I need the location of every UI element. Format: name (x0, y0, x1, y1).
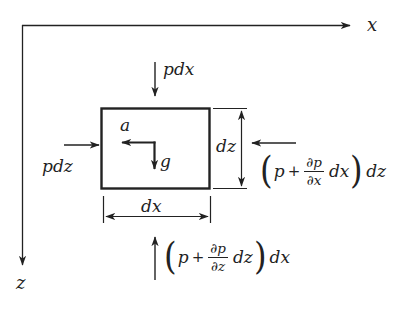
fluid-element-diagram: x z pdx pdz a g dz dx ( p + ∂p ∂x dx ) d… (0, 0, 398, 313)
fraction-denominator: ∂z (211, 258, 225, 274)
close-paren: ) (351, 151, 364, 189)
partial-dp-dx-fraction: ∂p ∂x (304, 156, 324, 188)
area-term: dx (270, 249, 290, 266)
fraction-numerator: ∂p (208, 242, 228, 259)
bottom-pressure-formula: ( p + ∂p ∂z dz ) dx (163, 235, 290, 280)
left-pressure-label: pdz (42, 158, 73, 175)
dz-dimension-label: dz (216, 138, 236, 155)
open-paren: ( (164, 237, 177, 275)
partial-dp-dz-fraction: ∂p ∂z (208, 242, 228, 274)
pressure-symbol: p (274, 163, 285, 180)
fraction-denominator: ∂x (307, 172, 322, 188)
open-paren: ( (260, 151, 273, 189)
dx-dimension-label: dx (141, 198, 161, 215)
acceleration-label: a (120, 117, 130, 134)
fraction-numerator: ∂p (304, 156, 324, 173)
pressure-symbol: p (178, 249, 189, 266)
area-term: dz (366, 163, 386, 180)
plus-sign: + (288, 164, 301, 179)
x-axis-label: x (367, 16, 377, 34)
gravity-label: g (160, 153, 171, 170)
z-axis-label: z (16, 274, 25, 292)
plus-sign: + (192, 250, 205, 265)
right-pressure-formula: ( p + ∂p ∂x dx ) dz (259, 149, 386, 194)
top-pressure-label: pdx (163, 61, 194, 78)
differential-term: dx (329, 163, 349, 180)
differential-term: dz (233, 249, 253, 266)
close-paren: ) (254, 237, 267, 275)
